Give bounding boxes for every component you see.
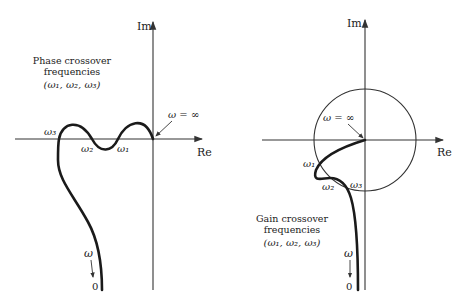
right-annotation-line1: Gain crossover [256,213,328,224]
left-annotation-line1: Phase crossover [33,55,112,66]
left-omega-direction-arrow [91,260,93,277]
right-zero-label: 0 [346,281,352,292]
left-annotation-line2: frequencies [44,66,101,77]
right-omega-inf-label: ω = ∞ [323,112,354,123]
left-zero-label: 0 [92,281,98,292]
right-omega1-label: ω₁ [303,158,315,169]
left-omega-inf-arrow [156,121,172,136]
left-omega-inf-label: ω = ∞ [168,109,199,120]
right-nyquist-plot: Im Re ω = ∞ ω₁ ω₂ ω₃ Gain crossover freq… [256,17,452,292]
right-im-label: Im [347,17,362,30]
left-omega3-label: ω₃ [44,126,56,137]
right-annotation-line3: (ω₁, ω₂, ω₃) [263,237,320,248]
right-annotation-line2: frequencies [264,224,321,235]
left-nyquist-curve [58,123,153,290]
left-im-label: Im [137,20,152,33]
left-omega1-label: ω₁ [117,143,129,154]
left-nyquist-plot: Im Re Phase crossover frequencies (ω₁, ω… [15,20,212,292]
right-re-label: Re [437,146,452,159]
right-omega-inf-arrow [348,124,363,138]
left-annotation-line3: (ω₁, ω₂, ω₃) [43,79,100,90]
right-omega-label: ω [344,247,353,260]
right-omega3-label: ω₃ [350,179,362,190]
left-re-label: Re [197,146,212,159]
nyquist-diagrams: Im Re Phase crossover frequencies (ω₁, ω… [0,0,462,304]
left-omega2-label: ω₂ [81,143,93,154]
right-omega2-label: ω₂ [322,181,334,192]
left-omega-label: ω [84,247,93,260]
